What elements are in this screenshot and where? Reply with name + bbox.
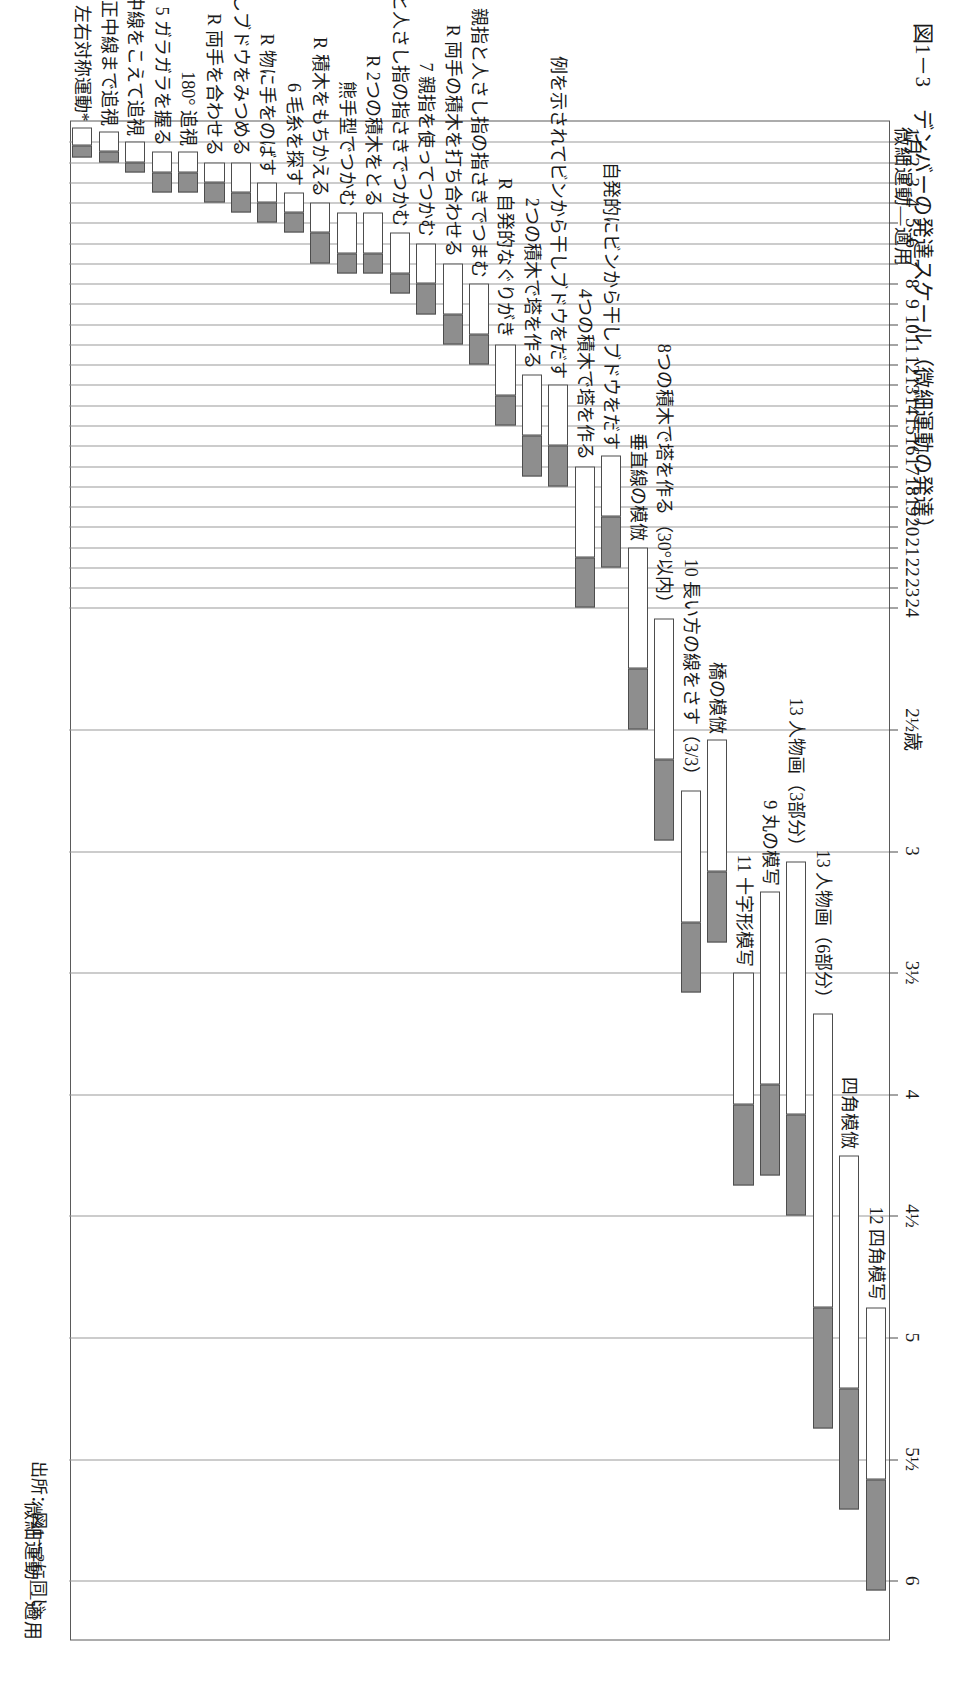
bar-segment-25-75 — [733, 972, 753, 1104]
bar-row: 6 毛糸を探す — [284, 121, 304, 1641]
axis-tick-label: 4 — [903, 1089, 922, 1099]
bar-label: 左右対称運動* — [73, 4, 91, 121]
bar-segment-75-90 — [601, 516, 621, 567]
bar-row: R 物に手をのばす — [257, 121, 277, 1641]
bar-segment-25-75 — [839, 1155, 859, 1388]
bar-segment-75-90 — [760, 1084, 780, 1175]
axis-tick-label: 20 — [903, 517, 922, 536]
axis-tick — [889, 243, 898, 244]
bar-row: 垂直線の模倣 — [628, 121, 648, 1641]
axis-tick-label: 3 — [903, 177, 922, 187]
bar-segment-75-90 — [390, 273, 410, 293]
axis-tick-label: 5½ — [903, 1447, 922, 1471]
bar-label: 13 人物画（6部分） — [814, 849, 832, 1007]
axis-tick — [889, 587, 898, 588]
axis-tick-label: 10 — [903, 314, 922, 333]
axis-tick — [889, 425, 898, 426]
bar-segment-25-75 — [469, 283, 489, 334]
bar-segment-75-90 — [337, 253, 357, 273]
bar-segment-25-75 — [786, 861, 806, 1114]
bar-segment-25-75 — [204, 162, 224, 182]
bar-label: 四角模倣 — [840, 1077, 858, 1149]
bar-row: 2つの積木で塔を作る — [522, 121, 542, 1641]
axis-tick — [889, 851, 898, 852]
axis-tick — [889, 405, 898, 406]
bar-label: 例を示されてビンから干しブドウをだす — [549, 55, 567, 378]
bar-segment-75-90 — [495, 395, 515, 425]
axis-tick — [889, 141, 898, 142]
bar-row: 13 人物画（3部分） — [786, 121, 806, 1641]
bar-segment-75-90 — [548, 445, 568, 486]
axis-tick-label: 18 — [903, 476, 922, 495]
axis-tick-label: 23 — [903, 578, 922, 597]
bar-segment-25-75 — [390, 232, 410, 273]
axis-tick-label: 14 — [903, 395, 922, 414]
bar-segment-75-90 — [628, 668, 648, 729]
bar-label: 橋の模倣 — [708, 661, 726, 733]
axis-tick — [889, 1580, 898, 1581]
bar-label: 干しブドウをみつめる — [232, 0, 250, 156]
axis-tick-label: 5 — [903, 218, 922, 228]
axis-tick — [889, 1094, 898, 1095]
bar-segment-75-90 — [813, 1307, 833, 1429]
bar-label: 親指と人さし指の指さきでつまむ — [470, 7, 488, 277]
axis-tick-label: 3 — [903, 846, 922, 856]
bar-segment-25-75 — [866, 1307, 886, 1479]
axis-tick-label: 24 — [903, 598, 922, 617]
bar-segment-75-90 — [363, 253, 383, 273]
bar-segment-25-75 — [601, 455, 621, 516]
axis-tick — [889, 486, 898, 487]
bar-label: 2つの積木で塔を作る — [523, 197, 541, 368]
bar-segment-25-75 — [125, 141, 145, 161]
category-header-right: 微細運動―適用 — [21, 1500, 48, 1640]
axis-tick — [889, 182, 898, 183]
axis-tick-label: 12 — [903, 355, 922, 374]
bar-row: 自発的にビンから干しブドウをだす — [601, 121, 621, 1641]
axis-tick — [889, 445, 898, 446]
bar-label: 9 丸の模写 — [761, 800, 779, 886]
bar-segment-75-90 — [786, 1114, 806, 1215]
bar-label: R 両手の積木を打ち合わせる — [444, 24, 462, 257]
bar-row: 干しブドウをみつめる — [231, 121, 251, 1641]
bar-label: 11 十字形模写 — [735, 854, 753, 966]
bar-label: R 自発的なぐりがき — [496, 177, 514, 338]
bar-row: R 積木をもちかえる — [310, 121, 330, 1641]
bar-label: 自発的にビンから干しブドウをだす — [602, 161, 620, 449]
axis-tick — [889, 263, 898, 264]
axis-tick — [889, 466, 898, 467]
bar-label: 12 四角模写 — [867, 1206, 885, 1301]
bar-label: 10 長い方の線をさす（3/3） — [682, 558, 700, 784]
bar-segment-25-75 — [813, 1013, 833, 1307]
bar-row: 180° 追視 — [178, 121, 198, 1641]
axis-tick-label: 2½歳 — [903, 708, 922, 751]
axis-tick — [889, 324, 898, 325]
bar-segment-25-75 — [495, 344, 515, 395]
bar-label: 5 ガラガラを握る — [153, 6, 171, 146]
axis-tick — [889, 972, 898, 973]
bar-segment-75-90 — [443, 314, 463, 344]
figure-stage: 図1－3 デンバーの発達スケール（微細運動の発達） 出所：図1－2に同じ。 微細… — [0, 0, 958, 1699]
axis-tick-label: 6 — [903, 238, 922, 248]
bar-segment-75-90 — [72, 145, 92, 157]
bar-label: 熊手型でつかむ — [338, 80, 356, 206]
bar-segment-75-90 — [257, 202, 277, 222]
bar-segment-75-90 — [733, 1104, 753, 1185]
bar-row: 橋の模倣 — [707, 121, 727, 1641]
bar-segment-25-75 — [284, 192, 304, 212]
bar-row: 9 丸の模写 — [760, 121, 780, 1641]
bar-segment-75-90 — [681, 922, 701, 993]
axis-tick-label: 13 — [903, 375, 922, 394]
bar-segment-25-75 — [575, 466, 595, 557]
bar-segment-25-75 — [99, 131, 119, 151]
axis-tick — [889, 303, 898, 304]
bar-segment-25-75 — [681, 790, 701, 922]
bar-segment-25-75 — [443, 263, 463, 314]
bar-segment-25-75 — [707, 739, 727, 871]
bar-segment-25-75 — [548, 384, 568, 445]
plot-area: 1月23456789101112131415161718192021222324… — [70, 120, 890, 1640]
axis-tick — [889, 526, 898, 527]
axis-tick-label: 1月 — [903, 127, 922, 156]
axis-tick-label: 22 — [903, 557, 922, 576]
bar-row: 4 正中線をこえて追視 — [125, 121, 145, 1641]
bar-segment-75-90 — [310, 232, 330, 262]
